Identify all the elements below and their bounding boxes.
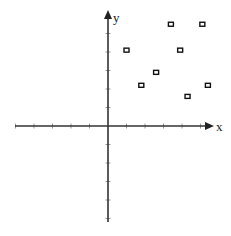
x-axis-arrow-icon bbox=[205, 122, 214, 130]
data-point-marker bbox=[168, 22, 173, 26]
data-point-marker bbox=[139, 83, 144, 87]
data-points bbox=[124, 22, 210, 98]
data-point-marker bbox=[200, 22, 205, 26]
data-point-marker bbox=[124, 48, 129, 52]
y-axis-label: y bbox=[113, 10, 120, 25]
coordinate-plane: x y bbox=[0, 0, 231, 236]
data-point-marker bbox=[205, 83, 210, 87]
y-axis-arrow-icon bbox=[104, 10, 112, 19]
data-point-marker bbox=[185, 94, 190, 98]
data-point-marker bbox=[178, 48, 183, 52]
x-axis-label: x bbox=[216, 119, 223, 134]
data-point-marker bbox=[154, 70, 159, 74]
